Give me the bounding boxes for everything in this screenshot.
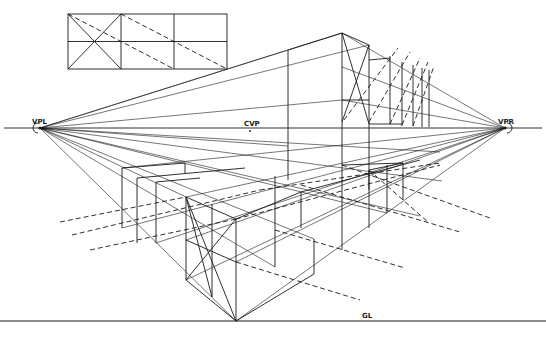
tower-box — [288, 33, 369, 250]
reference-grid — [68, 14, 227, 69]
vpl-rays — [40, 33, 442, 321]
tower-right-grid — [344, 48, 434, 127]
cvp-marker — [249, 130, 251, 132]
perspective-drawing: VPL VPR CVP GL — [0, 0, 546, 337]
perspective-canvas: VPL VPR CVP GL — [0, 0, 546, 337]
gl-label: GL — [362, 312, 373, 320]
vpl-label: VPL — [32, 118, 48, 126]
vpr-rays — [122, 33, 505, 321]
base-boxes — [60, 160, 490, 321]
vpr-label: VPR — [498, 118, 515, 126]
cvp-label: CVP — [244, 120, 260, 128]
